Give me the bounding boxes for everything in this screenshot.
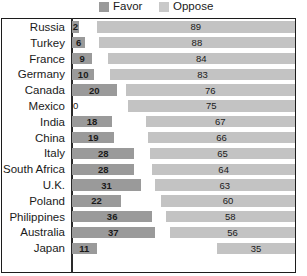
legend-swatch-favor-icon [99, 2, 109, 12]
bar-favor: 36 [72, 211, 152, 222]
bar-oppose: 88 [99, 37, 295, 48]
legend-item-oppose: Oppose [159, 1, 213, 12]
category-label: South Africa [1, 161, 68, 177]
category-label: Turkey [1, 35, 68, 51]
bar-row: U.K.3163 [1, 177, 295, 193]
category-label: Germany [1, 66, 68, 82]
bar-oppose: 67 [146, 116, 295, 127]
bar-value-favor: 28 [98, 165, 109, 174]
bar-oppose: 65 [150, 148, 295, 159]
bar-row: Mexico075 [1, 98, 295, 114]
category-label: Philippines [1, 209, 68, 225]
row-bars: 1083 [72, 66, 295, 82]
bar-favor: 11 [72, 243, 97, 254]
bar-row: Russia289 [1, 19, 295, 35]
bar-oppose: 75 [128, 100, 295, 111]
bar-oppose: 76 [126, 84, 295, 95]
legend-label-oppose: Oppose [173, 1, 213, 12]
bar-oppose: 83 [110, 69, 295, 80]
category-label: Poland [1, 193, 68, 209]
row-bars: 3658 [72, 209, 295, 225]
row-bars: 2260 [72, 193, 295, 209]
bar-favor: 31 [72, 179, 141, 190]
bar-value-oppose: 84 [196, 54, 207, 63]
legend-label-favor: Favor [113, 1, 142, 12]
category-label: France [1, 51, 68, 67]
bar-row: France984 [1, 51, 295, 67]
bar-chart: Favor Oppose Russia289Turkey688France984… [0, 0, 307, 276]
category-label: U.K. [1, 177, 68, 193]
legend-swatch-oppose-icon [159, 2, 169, 12]
bar-oppose: 84 [108, 53, 295, 64]
bar-value-oppose: 83 [197, 70, 208, 79]
bar-value-oppose: 66 [216, 133, 227, 142]
bar-value-oppose: 76 [205, 86, 216, 95]
bar-value-oppose: 64 [218, 165, 229, 174]
chart-legend: Favor Oppose [0, 0, 307, 17]
bar-row: Italy2865 [1, 146, 295, 162]
category-label: Russia [1, 19, 68, 35]
bar-oppose: 64 [152, 164, 295, 175]
bar-favor: 10 [72, 69, 94, 80]
bar-favor: 6 [72, 37, 85, 48]
row-bars: 3756 [72, 225, 295, 241]
bar-value-favor: 2 [73, 22, 78, 31]
bar-value-oppose: 63 [219, 181, 230, 190]
bar-oppose: 35 [217, 243, 295, 254]
bar-favor: 9 [72, 53, 92, 64]
bar-row: Philippines3658 [1, 209, 295, 225]
row-bars: 3163 [72, 177, 295, 193]
category-label: Mexico [1, 98, 68, 114]
bar-value-oppose: 35 [251, 244, 262, 253]
bar-row: Poland2260 [1, 193, 295, 209]
bar-value-oppose: 88 [192, 38, 203, 47]
bar-row: China1966 [1, 130, 295, 146]
bar-value-favor: 36 [107, 212, 118, 221]
row-bars: 2864 [72, 161, 295, 177]
bar-value-favor: 20 [89, 86, 100, 95]
bar-favor: 0 [72, 100, 80, 111]
bar-value-favor: 37 [108, 228, 119, 237]
category-label: Italy [1, 146, 68, 162]
bar-favor: 28 [72, 148, 134, 159]
bar-value-favor: 19 [88, 133, 99, 142]
category-label: China [1, 130, 68, 146]
bar-value-favor: 31 [101, 181, 112, 190]
row-bars: 1966 [72, 130, 295, 146]
bar-oppose: 58 [166, 211, 295, 222]
legend-item-favor: Favor [99, 1, 142, 12]
bar-row: Canada2076 [1, 82, 295, 98]
bar-favor: 18 [72, 116, 112, 127]
category-label: Canada [1, 82, 68, 98]
row-bars: 2076 [72, 82, 295, 98]
row-bars: 1867 [72, 114, 295, 130]
bar-value-oppose: 89 [190, 22, 201, 31]
row-bars: 984 [72, 51, 295, 67]
bar-oppose: 66 [148, 132, 295, 143]
bar-value-favor: 9 [79, 54, 84, 63]
bar-value-oppose: 75 [206, 101, 217, 110]
category-label: India [1, 114, 68, 130]
bar-favor: 28 [72, 164, 134, 175]
bar-oppose: 89 [97, 21, 295, 32]
bar-row: Germany1083 [1, 66, 295, 82]
bar-value-favor: 11 [79, 244, 89, 253]
bar-oppose: 60 [161, 195, 295, 206]
bar-value-oppose: 56 [227, 228, 238, 237]
bar-value-favor: 6 [76, 38, 81, 47]
bar-favor: 20 [72, 84, 117, 95]
row-bars: 289 [72, 19, 295, 35]
bar-row: India1867 [1, 114, 295, 130]
bar-value-favor: 10 [78, 70, 89, 79]
bar-favor: 22 [72, 195, 121, 206]
bar-favor: 37 [72, 227, 155, 238]
row-bars: 1135 [72, 240, 295, 256]
bar-value-oppose: 60 [223, 196, 234, 205]
bar-row: Turkey688 [1, 35, 295, 51]
bar-value-favor: 22 [91, 196, 102, 205]
bar-row: Japan1135 [1, 240, 295, 256]
bar-value-favor: 18 [87, 117, 98, 126]
bar-rows: Russia289Turkey688France984Germany1083Ca… [1, 19, 295, 272]
row-bars: 688 [72, 35, 295, 51]
bar-row: Australia3756 [1, 225, 295, 241]
